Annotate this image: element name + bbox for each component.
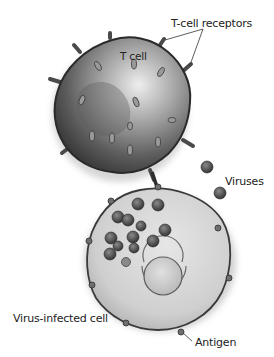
label-antigen: Antigen <box>195 337 236 348</box>
virus <box>113 241 123 251</box>
label-virus-infected-cell: Virus-infected cell <box>13 313 108 324</box>
virus <box>201 161 213 173</box>
receptor-leader-line <box>190 29 203 65</box>
free-viruses <box>201 161 226 199</box>
antigen-bump <box>123 320 129 326</box>
virus <box>136 221 146 231</box>
antigen-bump <box>226 275 232 281</box>
antigen-bump <box>108 198 114 204</box>
surface-bump <box>156 137 161 147</box>
virus <box>104 248 116 260</box>
receptor <box>74 45 80 52</box>
virus <box>159 224 171 236</box>
label-viruses: Viruses <box>225 176 264 187</box>
receptor-leader-line <box>165 29 203 40</box>
antigen-bump <box>155 184 161 190</box>
virus <box>152 199 164 211</box>
label-t-cell-receptors: T-cell receptors <box>171 18 252 29</box>
virus <box>132 198 144 210</box>
surface-bump <box>168 118 176 123</box>
virus <box>147 235 159 247</box>
virus <box>127 231 139 243</box>
surface-bump <box>90 131 95 141</box>
virus <box>214 187 226 199</box>
receptor <box>50 79 60 82</box>
antigen-leader-line <box>183 333 192 341</box>
antigen-bump <box>89 282 95 288</box>
label-t-cell: T cell <box>120 51 147 62</box>
virus <box>122 214 134 226</box>
surface-bump <box>110 133 115 143</box>
virus <box>122 258 131 267</box>
receptor <box>183 140 193 146</box>
surface-bump <box>128 122 133 130</box>
antigen-bump <box>215 225 221 231</box>
virus <box>129 243 139 253</box>
antigen-bump <box>178 329 184 335</box>
surface-bump <box>128 145 133 155</box>
antigen-bump <box>86 238 92 244</box>
